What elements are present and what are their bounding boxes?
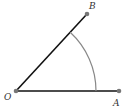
label-b: B <box>88 1 96 11</box>
point-o <box>14 89 19 94</box>
label-a: A <box>112 98 120 108</box>
point-b <box>85 12 90 17</box>
label-o: O <box>4 92 12 102</box>
angle-diagram: O A B <box>0 0 124 110</box>
point-a <box>117 89 122 94</box>
angle-arc <box>70 32 96 91</box>
segment-ob <box>16 14 87 91</box>
